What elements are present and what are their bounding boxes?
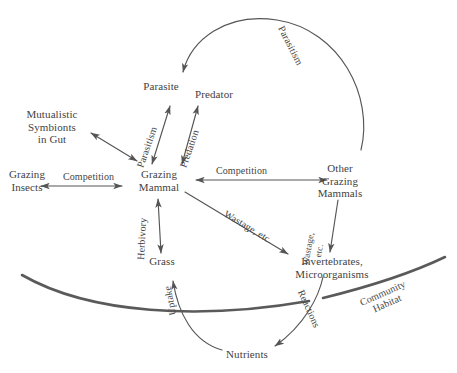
node-other-mammals-line-1: Other (307, 162, 373, 175)
node-other-mammals-line-3: Mammals (307, 187, 373, 200)
label-herbivory: Herbivory (135, 217, 148, 260)
edge-herbivory (158, 199, 161, 253)
node-other-grazing-mammals[interactable]: Other Grazing Mammals (307, 162, 373, 200)
label-competition-right: Competition (216, 165, 267, 176)
node-grazing-insects[interactable]: Grazing Insects (0, 168, 58, 193)
edge-parasitism-arc (183, 19, 364, 150)
node-invertebrates-microorganisms[interactable]: Invertebrates, Microorganisms (277, 255, 387, 280)
node-invertebrates-line-2: Microorganisms (277, 268, 387, 281)
node-symbionts-line-3: in Gut (13, 133, 91, 146)
node-nutrients-line-1: Nutrients (214, 348, 280, 361)
node-grazing-mammal-line-2: Mammal (128, 181, 190, 194)
node-other-mammals-line-2: Grazing (307, 175, 373, 188)
node-mutualistic-symbionts-in-gut[interactable]: Mutualistic Symbionts in Gut (13, 108, 91, 146)
edge-wastage-vertical (330, 200, 338, 252)
node-grazing-insects-line-1: Grazing (0, 168, 58, 181)
diagram-canvas (0, 0, 457, 373)
edge-uptake (173, 281, 222, 350)
node-predator[interactable]: Predator (181, 88, 247, 101)
node-symbionts-line-2: Symbionts (13, 121, 91, 134)
node-symbionts-line-1: Mutualistic (13, 108, 91, 121)
node-grazing-insects-line-2: Insects (0, 181, 58, 194)
edge-mutualism (91, 133, 137, 161)
node-nutrients[interactable]: Nutrients (214, 348, 280, 361)
node-invertebrates-line-1: Invertebrates, (277, 255, 387, 268)
node-predator-line-1: Predator (181, 88, 247, 101)
label-competition-left: Competition (63, 171, 114, 182)
node-grazing-mammal[interactable]: Grazing Mammal (128, 168, 190, 193)
ecology-relationship-diagram: Parasite Predator Mutualistic Symbionts … (0, 0, 457, 373)
node-grazing-mammal-line-1: Grazing (128, 168, 190, 181)
